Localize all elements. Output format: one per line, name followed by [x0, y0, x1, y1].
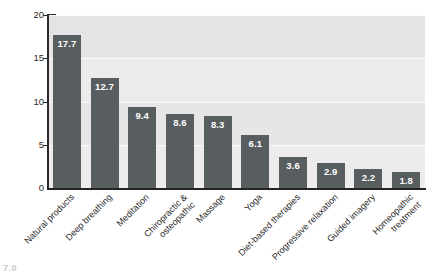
bar-chart: Percentage 05101520 17.712.79.48.68.36.1…	[0, 0, 438, 276]
page-artifact-text: 7.0	[3, 264, 49, 273]
x-axis-label-line: Meditation	[115, 192, 151, 228]
x-axis-label-line: Progressive relaxation	[270, 192, 340, 262]
x-axis-label-line: treatment	[331, 199, 423, 276]
x-axis-category-labels: Natural productsDeep breathingMeditation…	[0, 0, 438, 276]
x-axis-label-line: Massage	[194, 192, 227, 225]
x-axis-label-line: Yoga	[243, 192, 264, 213]
